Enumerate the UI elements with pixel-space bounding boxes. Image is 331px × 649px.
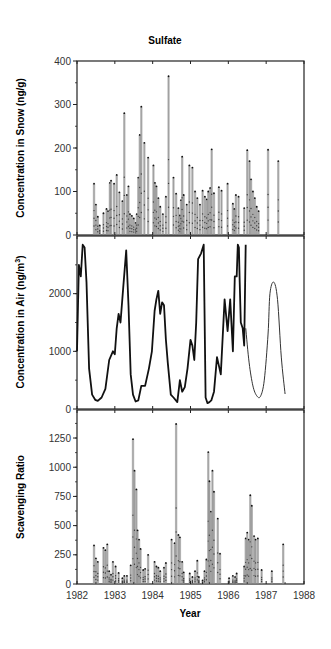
data-point [129, 213, 131, 215]
data-point [282, 543, 284, 545]
data-point [235, 194, 237, 196]
data-point [134, 546, 135, 547]
scavenging-ratio-bars [93, 423, 285, 584]
data-point [112, 573, 113, 574]
data-point [206, 572, 207, 573]
data-point [131, 215, 133, 217]
data-point [252, 191, 254, 193]
data-point [133, 226, 134, 227]
data-point [175, 227, 176, 228]
data-point [175, 215, 176, 216]
data-point [194, 570, 196, 572]
data-point [213, 491, 215, 493]
data-point [218, 219, 219, 220]
data-point [105, 577, 106, 578]
data-point [165, 216, 166, 217]
data-point [206, 579, 207, 580]
data-point [168, 75, 170, 77]
data-point [103, 547, 105, 549]
data-point [257, 538, 259, 540]
data-point [192, 202, 193, 203]
data-point [110, 582, 111, 583]
data-point [173, 216, 174, 217]
data-point [194, 579, 195, 580]
data-point [132, 438, 134, 440]
data-point [112, 576, 113, 577]
data-point [175, 555, 176, 556]
data-point [218, 186, 220, 188]
data-point [133, 231, 134, 232]
data-point [267, 149, 269, 151]
data-point [179, 536, 181, 538]
y-tick-label: 400 [54, 56, 71, 67]
data-point [271, 570, 273, 572]
y-tick-label: 300 [54, 99, 71, 110]
x-axis: 1982198319841985198619871988 [66, 61, 316, 601]
data-point [162, 224, 163, 225]
data-point [175, 193, 177, 195]
data-point [282, 576, 283, 577]
data-point [194, 220, 195, 221]
data-point [95, 557, 97, 559]
data-point [221, 220, 222, 221]
data-point [110, 225, 111, 226]
data-point [194, 214, 195, 215]
data-point [257, 575, 258, 576]
data-point [108, 581, 109, 582]
data-point [192, 223, 193, 224]
data-point [181, 561, 183, 563]
data-point [123, 112, 125, 114]
x-tick-label: 1988 [293, 590, 316, 601]
data-point [183, 571, 185, 573]
data-point [147, 578, 148, 579]
data-point [204, 216, 205, 217]
data-point [158, 576, 159, 577]
air-concentration-lines [77, 245, 285, 404]
data-point [213, 214, 214, 215]
data-point [228, 577, 230, 579]
data-point [141, 193, 142, 194]
data-point [156, 580, 157, 581]
data-point [258, 230, 259, 231]
data-point [118, 581, 119, 582]
data-point [244, 230, 245, 231]
data-point [267, 194, 268, 195]
y-tick-label: 100 [54, 186, 71, 197]
data-point [213, 567, 214, 568]
data-point [278, 210, 279, 211]
data-point [116, 174, 118, 176]
data-point [130, 574, 131, 575]
data-point [147, 157, 149, 159]
x-tick-label: 1986 [217, 590, 240, 601]
data-point [204, 196, 206, 198]
data-point [183, 580, 184, 581]
data-point [204, 222, 205, 223]
data-point [256, 206, 258, 208]
data-point [165, 573, 166, 574]
data-point [219, 578, 220, 579]
data-point [93, 218, 94, 219]
data-point [217, 518, 219, 520]
data-point [171, 562, 172, 563]
data-point [103, 224, 104, 225]
data-point [154, 573, 155, 574]
data-point [160, 581, 161, 582]
data-point [135, 489, 137, 491]
panel-frame-1 [77, 236, 304, 409]
x-tick-label: 1985 [179, 590, 202, 601]
data-point [97, 561, 99, 563]
data-point [93, 225, 94, 226]
data-point [122, 228, 123, 229]
data-point [232, 575, 234, 577]
data-point [246, 532, 248, 534]
data-point [160, 229, 161, 230]
data-point [160, 577, 161, 578]
data-point [188, 165, 190, 167]
data-point [278, 199, 279, 200]
data-point [99, 231, 100, 232]
data-point [186, 229, 187, 230]
data-point [261, 579, 262, 580]
data-point [93, 571, 94, 572]
data-point [97, 216, 99, 218]
y-tick-label: 0 [65, 404, 71, 415]
